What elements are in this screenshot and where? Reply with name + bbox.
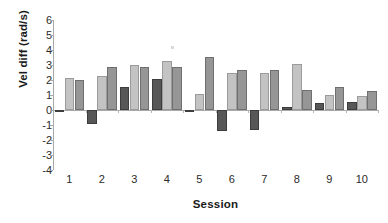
bar xyxy=(195,94,205,110)
bar xyxy=(97,76,107,111)
y-axis-tick-label: -1 xyxy=(30,119,52,131)
bar xyxy=(55,110,65,112)
plot-area xyxy=(53,20,378,170)
y-axis-tick-label: 4 xyxy=(30,44,52,56)
bar-group xyxy=(346,20,379,170)
bar xyxy=(282,107,292,110)
bar xyxy=(162,61,172,111)
y-axis-tick-label: 2 xyxy=(30,74,52,86)
x-axis-tick-label: 3 xyxy=(118,172,151,186)
bar-group xyxy=(216,20,249,170)
bar xyxy=(217,110,227,131)
x-axis-tick-label: 4 xyxy=(151,172,184,186)
x-axis-tick-label: 7 xyxy=(248,172,281,186)
bar xyxy=(205,57,215,110)
bar xyxy=(260,73,270,111)
y-axis-tick-label: 0 xyxy=(30,104,52,116)
y-axis-tick-labels: 6543210-1-2-3-4 xyxy=(26,0,52,223)
bar-group xyxy=(248,20,281,170)
x-axis-tick-label: 1 xyxy=(53,172,86,186)
bar xyxy=(227,73,237,111)
bar xyxy=(87,110,97,124)
x-axis-tick-mark xyxy=(378,110,379,113)
bar xyxy=(152,79,162,110)
bar-group xyxy=(281,20,314,170)
x-axis-tick-label: 9 xyxy=(313,172,346,186)
bar-chart: Vel diff (rad/s) 6543210-1-2-3-4 1234567… xyxy=(0,0,388,223)
bar-group xyxy=(118,20,151,170)
bar xyxy=(357,96,367,110)
y-axis-tick-label: -2 xyxy=(30,134,52,146)
bar xyxy=(237,70,247,110)
x-axis-tick-label: 5 xyxy=(183,172,216,186)
bar xyxy=(172,67,182,110)
bar xyxy=(130,65,140,110)
bar-group xyxy=(86,20,119,170)
bar xyxy=(347,102,357,110)
x-axis-tick-labels: 12345678910 xyxy=(53,172,378,188)
x-axis-title: Session xyxy=(53,196,378,212)
bar xyxy=(367,91,377,110)
bar xyxy=(315,103,325,110)
bar xyxy=(292,64,302,111)
y-axis-tick-label: -4 xyxy=(30,164,52,176)
y-axis-tick-label: 5 xyxy=(30,29,52,41)
bar xyxy=(302,90,312,110)
bar-group xyxy=(183,20,216,170)
x-axis-tick-label: 6 xyxy=(216,172,249,186)
y-axis-tick-label: 1 xyxy=(30,89,52,101)
bar xyxy=(335,87,345,110)
bar xyxy=(185,110,195,112)
y-axis-tick-label: 3 xyxy=(30,59,52,71)
bar xyxy=(120,87,130,110)
bar xyxy=(140,67,150,110)
bar xyxy=(270,70,280,111)
y-axis-tick-label: -3 xyxy=(30,149,52,161)
bar xyxy=(250,110,260,130)
bar-group xyxy=(313,20,346,170)
x-axis-tick-label: 8 xyxy=(281,172,314,186)
bar xyxy=(65,78,75,110)
bar-group xyxy=(53,20,86,170)
bar xyxy=(75,80,85,110)
bar-group xyxy=(151,20,184,170)
x-axis-tick-label: 10 xyxy=(346,172,379,186)
y-axis-tick-mark xyxy=(50,170,53,171)
x-axis-tick-label: 2 xyxy=(86,172,119,186)
bar xyxy=(325,95,335,110)
y-axis-tick-label: 6 xyxy=(30,14,52,26)
bar xyxy=(107,67,117,111)
